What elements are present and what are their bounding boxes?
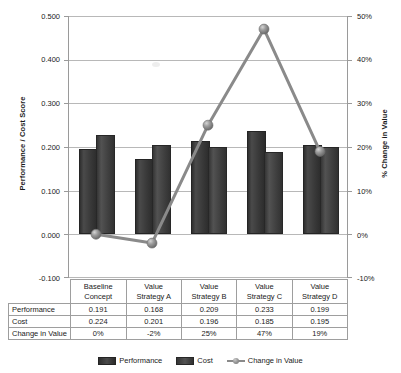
category-line-2: Strategy A	[130, 292, 178, 301]
performance-swatch-icon	[98, 357, 116, 365]
y-left-tick-0200: 0.200	[41, 144, 60, 152]
table-cell: 0.185	[237, 316, 292, 328]
table-category-header: ValueStrategy C	[237, 280, 292, 304]
table-cell: 0.224	[70, 316, 126, 328]
y-right-tick-10: 10%	[357, 188, 372, 196]
table-category-header: ValueStrategy B	[181, 280, 236, 304]
table-cell: 0.191	[70, 304, 126, 316]
line-marker-icon	[227, 357, 245, 365]
y-axis-right-title: % Change in Value	[380, 74, 389, 214]
y-left-tick-0100: 0.100	[41, 188, 60, 196]
tickmark-right-30	[348, 103, 352, 104]
tickmark-right-40	[348, 60, 352, 61]
table-row: Cost0.2240.2010.1960.1850.195	[9, 316, 348, 328]
table-cell: 0.199	[292, 304, 347, 316]
y-left-tick-0500: 0.500	[41, 13, 60, 21]
table-cell: 0.209	[181, 304, 236, 316]
tickmark-right-0	[348, 234, 352, 235]
table-row: Change in Value0%-2%25%47%19%	[9, 328, 348, 340]
y-right-tick-20: 20%	[357, 144, 372, 152]
category-line-1: Value	[296, 282, 344, 291]
table-cell: 0%	[70, 328, 126, 340]
legend-item-cost[interactable]: Cost	[176, 356, 212, 365]
tickmark-right-20	[348, 147, 352, 148]
scan-artifact	[152, 62, 160, 67]
y-right-tick-50: 50%	[357, 13, 372, 21]
table-row-label: Change in Value	[9, 328, 71, 340]
y-left-tick-0000: 0.000	[41, 232, 60, 240]
y-left-tick-0400: 0.400	[41, 56, 60, 64]
plot-area	[68, 16, 348, 278]
category-line-1: Value	[240, 282, 288, 291]
table-cell: -2%	[126, 328, 181, 340]
table-row: Performance0.1910.1680.2090.2330.199	[9, 304, 348, 316]
y-axis-left-title: Performance / Cost Score	[18, 74, 27, 214]
y-right-tick-30: 30%	[357, 100, 372, 108]
category-line-2: Strategy B	[185, 292, 233, 301]
y-right-tick-n10: -10%	[357, 275, 375, 283]
category-line-1: Baseline	[74, 282, 123, 291]
change-in-value-polyline	[96, 29, 320, 243]
category-line-2: Strategy D	[296, 292, 344, 301]
table-cell: 0.196	[181, 316, 236, 328]
change-in-value-marker	[147, 238, 157, 248]
table-row-label: Performance	[9, 304, 71, 316]
table-cell: 0.195	[292, 316, 347, 328]
legend-label-change-in-value: Change in Value	[248, 356, 303, 365]
legend-item-performance[interactable]: Performance	[98, 356, 162, 365]
data-table: BaselineConceptValueStrategy AValueStrat…	[8, 279, 348, 340]
y-left-tick-0300: 0.300	[41, 100, 60, 108]
legend-item-change-in-value[interactable]: Change in Value	[227, 356, 303, 365]
cost-swatch-icon	[176, 357, 194, 365]
y-right-tick-0: 0%	[357, 232, 368, 240]
table-cell: 0.233	[237, 304, 292, 316]
table-category-header: ValueStrategy D	[292, 280, 347, 304]
table-row-label: Cost	[9, 316, 71, 328]
table-category-header: BaselineConcept	[70, 280, 126, 304]
table-category-header: ValueStrategy A	[126, 280, 181, 304]
change-in-value-marker	[259, 24, 269, 34]
change-in-value-marker	[203, 120, 213, 130]
table-cell: 19%	[292, 328, 347, 340]
chart-legend: Performance Cost Change in Value	[0, 356, 401, 365]
category-line-1: Value	[185, 282, 233, 291]
table-corner-cell	[9, 280, 71, 304]
y-right-tick-40: 40%	[357, 56, 372, 64]
tickmark-right-50	[348, 16, 352, 17]
table-cell: 25%	[181, 328, 236, 340]
change-in-value-marker	[91, 229, 101, 239]
tickmark-right-n10	[348, 277, 352, 278]
legend-label-performance: Performance	[119, 356, 162, 365]
change-in-value-marker	[315, 146, 325, 156]
table-cell: 0.201	[126, 316, 181, 328]
table-header-row: BaselineConceptValueStrategy AValueStrat…	[9, 280, 348, 304]
table-cell: 47%	[237, 328, 292, 340]
tickmark-right-10	[348, 191, 352, 192]
category-line-2: Strategy C	[240, 292, 288, 301]
category-line-1: Value	[130, 282, 178, 291]
change-in-value-line-series	[68, 16, 348, 278]
category-line-2: Concept	[74, 292, 123, 301]
legend-label-cost: Cost	[197, 356, 212, 365]
chart-container: Performance / Cost Score % Change in Val…	[0, 0, 401, 373]
table-cell: 0.168	[126, 304, 181, 316]
